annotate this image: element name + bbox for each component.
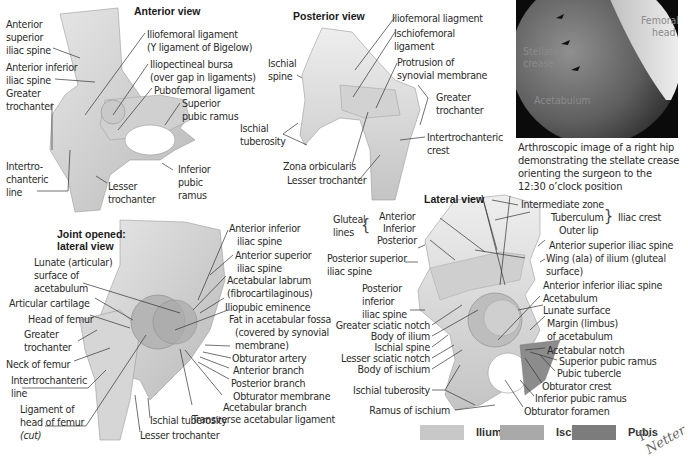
label-wing-of-ilium: Wing (ala) of ilium (gluteal — [546, 252, 666, 265]
label-iliopectineal-bursa: Iliopectineal bursa — [150, 58, 233, 71]
acetabulum-photo-label: Acetabulum — [534, 94, 591, 106]
label-pubic-tubercle: Pubic tubercle — [557, 367, 621, 380]
label-iliac-spine: iliac spine — [6, 44, 51, 57]
label-fibrocartilaginous: (fibrocartilaginous) — [227, 287, 312, 300]
photo-caption-line-4: 12:30 o’clock position — [518, 180, 622, 193]
label-cut: (cut) — [20, 429, 41, 442]
label-superior: superior — [6, 31, 43, 44]
label-tuberculum: Tuberculum — [551, 211, 604, 224]
legend-ilium: Ilium — [420, 424, 502, 440]
label-anterior-inferior-j: Anterior inferior — [229, 222, 300, 235]
label-synovial-membrane: synovial membrane — [397, 69, 487, 82]
label-trochanter: trochanter — [6, 100, 53, 113]
femoral-head-label-2: head — [652, 26, 676, 38]
label-margin-limbus: Margin (limbus) — [547, 317, 618, 330]
photo-caption-line-2: demonstrating the stellate crease — [518, 154, 679, 167]
label-ischial-2: Ischial — [240, 122, 268, 135]
label-head-of-femur-2: head of femur — [20, 416, 84, 429]
label-pubofemoral-ligament: Pubofemoral ligament — [154, 84, 254, 97]
label-of-acetabulum: of acetabulum — [547, 330, 613, 343]
iliac-crest-brace: } — [604, 195, 613, 237]
label-acetabular-branch: Acetabular branch — [223, 401, 306, 414]
posterior-view-title: Posterior view — [293, 10, 365, 23]
label-lunate-articular: Lunate (articular) — [34, 256, 112, 269]
label-acetabular-labrum: Acetabular labrum — [227, 274, 311, 287]
label-iliac-spine-j2: iliac spine — [237, 262, 282, 275]
label-over-gap: (over gap in ligaments) — [150, 71, 256, 84]
label-fat-acetabular-fossa: Fat in acetabular fossa — [229, 313, 331, 326]
label-articular-cartilage: Articular cartilage — [9, 297, 90, 310]
label-intertrochanteric-line: Intertrochanteric — [11, 374, 87, 387]
legend-swatch-ilium — [420, 425, 464, 440]
label-surface-of: surface of — [34, 269, 79, 282]
label-inferior-l: inferior — [362, 295, 394, 308]
label-acetabulum: acetabulum — [34, 282, 88, 295]
label-gluteal-posterior: Posterior — [377, 234, 417, 247]
label-lines: lines — [333, 226, 354, 239]
label-line-j: line — [11, 387, 27, 400]
label-posterior-branch: Posterior branch — [231, 377, 305, 390]
label-intertrochanteric: Intertrochanteric — [427, 131, 503, 144]
label-trochanter-2: trochanter — [108, 193, 155, 206]
photo-caption-line-3: orienting the surgeon to the — [518, 167, 652, 180]
label-surface: surface) — [546, 265, 583, 278]
label-pubic-ramus: pubic ramus — [182, 110, 238, 123]
label-posterior-superior: Posterior superior — [327, 252, 407, 265]
label-gluteal-anterior: Anterior — [379, 210, 415, 223]
label-crest: crest — [427, 144, 449, 157]
label-membrane: membrane) — [235, 339, 289, 352]
label-trochanter-p: trochanter — [436, 104, 483, 117]
label-spine: spine — [268, 70, 292, 83]
label-anterior-branch: Anterior branch — [233, 364, 304, 377]
label-ramus-of-ischium: Ramus of ischium — [369, 404, 450, 417]
stellate-crease-label: Stellate — [523, 45, 559, 57]
legend-swatch-ischium — [500, 425, 544, 440]
label-ligament: ligament — [394, 40, 434, 53]
legend-label-ilium: Ilium — [476, 426, 502, 438]
label-inferior: Inferior — [178, 163, 210, 176]
label-ligament-of: Ligament of — [20, 403, 74, 416]
joint-opened-title-2: lateral view — [57, 240, 114, 253]
label-iliac-crest: Iliac crest — [618, 211, 661, 224]
lateral-view-illustration — [405, 195, 560, 410]
gluteal-brace: { — [361, 207, 370, 243]
label-iliofemoral-liagment: Iliofemoral liagment — [392, 12, 483, 25]
label-obturator-artery: Obturator artery — [232, 352, 307, 365]
label-superior-2: Superior — [182, 97, 220, 110]
label-trochanter-j: trochanter — [24, 341, 71, 354]
label-intertro: Intertro- — [6, 160, 43, 173]
label-iliofemoral-ligament: Iliofemoral ligament — [147, 28, 238, 41]
joint-opened-title-1: Joint opened: — [57, 228, 126, 241]
photo-caption-line-1: Arthroscopic image of a right hip — [518, 141, 674, 154]
label-chanteric: chanteric — [6, 173, 48, 186]
label-anterior: Anterior — [6, 18, 42, 31]
label-ischial: Ischial — [268, 57, 296, 70]
label-intermediate-zone: Intermediate zone — [521, 198, 604, 211]
anterior-view-title: Anterior view — [134, 5, 201, 18]
label-ischiofemoral: Ischiofemoral — [394, 27, 455, 40]
label-covered-synovial: (covered by synovial — [235, 326, 329, 339]
label-gluteal-inferior: Inferior — [383, 222, 415, 235]
label-ischial-tuberosity-l: Ischial tuberosity — [353, 384, 430, 397]
label-transverse-acetabular-ligament: Transverse acetabular ligament — [192, 413, 335, 426]
label-inferior-pubic-ramus: Inferior pubic ramus — [535, 392, 627, 405]
label-anterior-superior-iliac-spine: Anterior superior iliac spine — [549, 239, 673, 252]
label-iliac-spine-l: iliac spine — [327, 265, 372, 278]
label-anterior-inferior: Anterior inferior — [6, 61, 77, 74]
stellate-crease-label-2: crease — [523, 57, 554, 69]
label-lesser-trochanter-j: Lesser trochanter — [140, 429, 219, 442]
label-body-of-ischium: Body of ischium — [358, 363, 430, 376]
label-iliac-spine-j: iliac spine — [237, 235, 282, 248]
label-pubic: pubic — [178, 176, 203, 189]
label-greater-j: Greater — [24, 328, 59, 341]
label-outer-lip: Outer lip — [559, 224, 598, 237]
label-iliopubic-eminence: Iliopubic eminence — [225, 301, 310, 314]
label-zona-orbicularis: Zona orbicularis — [283, 160, 356, 173]
label-neck-of-femur: Neck of femur — [6, 358, 70, 371]
label-acetabulum-l: Acetabulum — [543, 292, 598, 305]
label-head-of-femur: Head of femur — [28, 313, 93, 326]
label-tuberosity: tuberosity — [240, 135, 286, 148]
label-obturator-foramen: Obturator foramen — [524, 405, 609, 418]
label-line: line — [6, 186, 22, 199]
label-y-ligament: (Y ligament of Bigelow) — [147, 41, 252, 54]
